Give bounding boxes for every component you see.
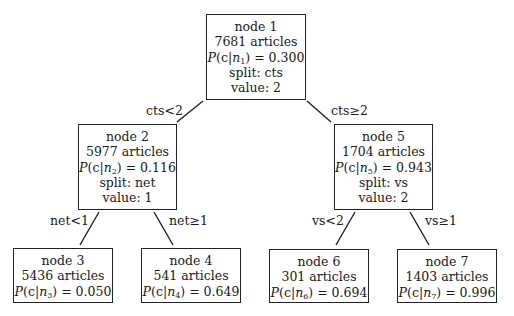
node-article-count: 5436 articles [14,268,112,283]
node-probability: P(c|n6) = 0.694 [270,285,368,300]
node-title: node 1 [207,19,305,34]
node-value: value: 2 [335,190,432,205]
node-value: value: 1 [79,190,176,205]
node-title: node 5 [335,129,432,144]
node-title: node 7 [398,254,496,269]
node-title: node 3 [14,253,112,268]
edge-label-n1-n5: cts≥2 [331,104,368,118]
edge-label-n2-n4: net≥1 [169,214,208,228]
node-article-count: 7681 articles [207,34,305,49]
node-probability: P(c|n4) = 0.649 [142,284,240,299]
node-article-count: 5977 articles [79,144,176,159]
tree-node-6: node 6 301 articles P(c|n6) = 0.694 [269,249,369,303]
tree-node-5: node 5 1704 articles P(c|n5) = 0.943 spl… [334,124,433,210]
node-title: node 2 [79,129,176,144]
node-probability: P(c|n5) = 0.943 [335,160,432,175]
edge-label-n1-n2: cts<2 [146,104,183,118]
edge-label-n5-n7: vs≥1 [425,214,457,228]
node-probability: P(c|n3) = 0.050 [14,284,112,299]
node-split: split: net [79,175,176,190]
node-split: split: cts [207,65,305,80]
edge-n1-n5 [307,101,331,122]
node-probability: P(c|n7) = 0.996 [398,285,496,300]
node-probability: P(c|n1) = 0.300 [207,50,305,65]
node-article-count: 541 articles [142,268,240,283]
tree-node-1: node 1 7681 articles P(c|n1) = 0.300 spl… [206,14,306,100]
edge-label-n5-n6: vs<2 [312,214,344,228]
node-probability: P(c|n2) = 0.116 [79,160,176,175]
node-title: node 4 [142,253,240,268]
node-article-count: 1403 articles [398,269,496,284]
tree-node-3: node 3 5436 articles P(c|n3) = 0.050 [13,248,113,303]
node-split: split: vs [335,175,432,190]
node-value: value: 2 [207,80,305,95]
tree-node-2: node 2 5977 articles P(c|n2) = 0.116 spl… [78,124,177,210]
tree-node-4: node 4 541 articles P(c|n4) = 0.649 [141,248,241,303]
tree-node-7: node 7 1403 articles P(c|n7) = 0.996 [397,249,497,303]
node-article-count: 1704 articles [335,144,432,159]
node-title: node 6 [270,254,368,269]
node-article-count: 301 articles [270,269,368,284]
edge-label-n2-n3: net<1 [50,214,89,228]
